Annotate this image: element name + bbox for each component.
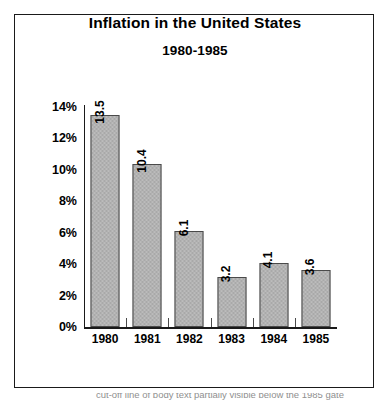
- x-axis-tick-label: 1982: [176, 333, 203, 345]
- y-axis-tick-label: 12%: [31, 132, 77, 145]
- y-axis-tick-label: 8%: [31, 195, 77, 208]
- bar-group[interactable]: 13.5: [84, 107, 126, 327]
- y-axis-tick-label: 14%: [31, 101, 77, 114]
- bar-group[interactable]: 10.4: [126, 107, 168, 327]
- bar[interactable]: 3.2: [217, 277, 246, 327]
- cropped-caption-strip: cut-off line of body text partially visi…: [0, 393, 390, 402]
- category-divider: [168, 318, 169, 327]
- chart-subtitle: 1980-1985: [0, 43, 390, 58]
- x-axis-tick-label: 1983: [218, 333, 245, 345]
- plot-area: 14% 12% 10% 8% 6% 4% 2% 0% 13.5 10.4 6.1…: [84, 107, 337, 327]
- bar-group[interactable]: 6.1: [168, 107, 210, 327]
- y-axis-tick-label: 10%: [31, 164, 77, 177]
- y-axis-tick-label: 2%: [31, 289, 77, 302]
- x-axis-line: [84, 327, 337, 329]
- bar-value-label: 13.5: [93, 100, 105, 123]
- bar-value-label: 3.6: [304, 259, 316, 276]
- bar-value-label: 4.1: [262, 251, 274, 268]
- category-divider: [295, 318, 296, 327]
- bar-value-label: 3.2: [220, 265, 232, 282]
- bar-group[interactable]: 3.6: [295, 107, 337, 327]
- x-axis-tick-label: 1980: [92, 333, 119, 345]
- bar-group[interactable]: 4.1: [253, 107, 295, 327]
- bar-group[interactable]: 3.2: [211, 107, 253, 327]
- caption-text: cut-off line of body text partially visi…: [96, 393, 344, 400]
- x-axis-tick-label: 1981: [134, 333, 161, 345]
- category-divider: [211, 318, 212, 327]
- bar[interactable]: 6.1: [175, 231, 204, 327]
- bar[interactable]: 3.6: [301, 270, 330, 327]
- y-axis-tick-label: 0%: [31, 321, 77, 334]
- category-divider: [253, 318, 254, 327]
- bar[interactable]: 13.5: [91, 115, 120, 327]
- bar[interactable]: 10.4: [133, 164, 162, 327]
- x-axis-labels: 1980 1981 1982 1983 1984 1985: [84, 333, 337, 351]
- bar[interactable]: 4.1: [259, 263, 288, 327]
- y-axis-tick-label: 4%: [31, 258, 77, 271]
- y-axis-tick-label: 6%: [31, 226, 77, 239]
- bars-layer: 13.5 10.4 6.1 3.2 4.1: [84, 107, 337, 327]
- category-divider: [126, 318, 127, 327]
- bar-value-label: 6.1: [177, 220, 189, 237]
- x-axis-tick-label: 1984: [260, 333, 287, 345]
- x-axis-tick-label: 1985: [303, 333, 330, 345]
- chart-title: Inflation in the United States: [0, 14, 390, 32]
- bar-value-label: 10.4: [135, 149, 147, 172]
